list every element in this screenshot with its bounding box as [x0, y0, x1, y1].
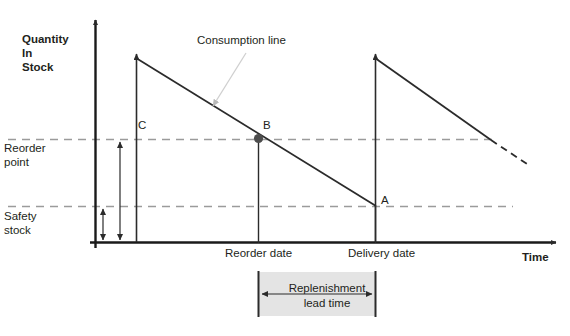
delivery-date-tick-label: Delivery date: [348, 246, 415, 260]
consumption-line-pointer: [213, 53, 246, 106]
replenishment-lead-time-label: Replenishment lead time: [275, 281, 379, 311]
point-b-marker: [254, 134, 263, 143]
consumption-line-cycle-1: [136, 58, 376, 206]
point-b-label: B: [263, 118, 271, 132]
x-axis-title: Time: [522, 250, 549, 264]
y-axis-title: Quantity In Stock: [22, 32, 69, 74]
point-c-label: C: [138, 118, 146, 132]
consumption-line-annotation: Consumption line: [197, 33, 286, 47]
consumption-line-cycle-2-projection: [491, 140, 530, 166]
safety-stock-label: Safety stock: [4, 209, 37, 237]
point-a-label: A: [381, 193, 389, 207]
reorder-point-label: Reorder point: [4, 141, 46, 169]
inventory-cycle-diagram: Quantity In Stock Reorder point Safety s…: [0, 0, 570, 336]
consumption-line-cycle-2: [375, 58, 491, 140]
reorder-date-tick-label: Reorder date: [225, 246, 292, 260]
